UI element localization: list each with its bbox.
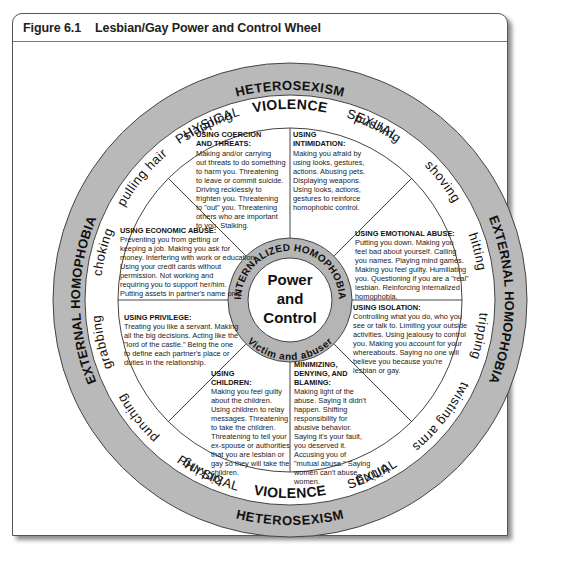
svg-text:children.: children. bbox=[211, 468, 239, 477]
svg-text:feel bad about yourself. Calli: feel bad about yourself. Calling bbox=[355, 247, 456, 256]
svg-text:about the children.: about the children. bbox=[211, 396, 272, 405]
svg-text:you deserved it.: you deserved it. bbox=[294, 441, 346, 450]
svg-text:whereabouts. Saying no one wil: whereabouts. Saying no one will bbox=[352, 348, 459, 357]
svg-text:responsibility for: responsibility for bbox=[294, 414, 348, 423]
svg-text:lesbian. Reinforcing internali: lesbian. Reinforcing internalized bbox=[355, 283, 460, 292]
svg-text:Saying it's your fault,: Saying it's your fault, bbox=[294, 432, 362, 441]
center-and: and bbox=[277, 290, 304, 307]
svg-text:frighten you. Threatening: frighten you. Threatening bbox=[196, 194, 278, 203]
svg-text:women.: women. bbox=[293, 477, 320, 486]
svg-text:USING: USING bbox=[293, 130, 317, 139]
svg-text:MINIMIZING,: MINIMIZING, bbox=[294, 360, 338, 369]
svg-text:ex-spouse or authorities: ex-spouse or authorities bbox=[211, 441, 290, 450]
svg-text:USING EMOTIONAL ABUSE:: USING EMOTIONAL ABUSE: bbox=[355, 229, 455, 238]
svg-text:to "out" you. Threatening: to "out" you. Threatening bbox=[196, 203, 277, 212]
svg-text:homophobia.: homophobia. bbox=[355, 292, 398, 301]
svg-text:all the big decisions. Acting: all the big decisions. Acting like the bbox=[124, 331, 238, 340]
svg-text:money. Interfering with work o: money. Interfering with work or educatio… bbox=[120, 253, 257, 262]
svg-text:Using children to relay: Using children to relay bbox=[211, 405, 284, 414]
svg-text:gestures to reinforce: gestures to reinforce bbox=[293, 194, 360, 203]
svg-text:you. Questioning if you are a: you. Questioning if you are a "real" bbox=[355, 274, 469, 283]
svg-text:believe you because you're: believe you because you're bbox=[353, 357, 442, 366]
svg-text:to leave or commit suicide.: to leave or commit suicide. bbox=[196, 176, 284, 185]
svg-text:USING: USING bbox=[211, 369, 235, 378]
center-power: Power bbox=[267, 271, 312, 288]
svg-text:"mutual abuse." Saying: "mutual abuse." Saying bbox=[294, 459, 370, 468]
svg-text:Preventing you from getting or: Preventing you from getting or bbox=[120, 235, 220, 244]
svg-text:to take the children.: to take the children. bbox=[211, 423, 276, 432]
svg-text:Accusing you of: Accusing you of bbox=[294, 450, 347, 459]
svg-text:BLAMING:: BLAMING: bbox=[294, 378, 331, 387]
svg-text:messages. Threatening: messages. Threatening bbox=[211, 414, 288, 423]
svg-text:Making light of the: Making light of the bbox=[294, 387, 354, 396]
svg-text:requiring you to support her/h: requiring you to support her/him. bbox=[120, 280, 226, 289]
svg-text:DENYING, AND: DENYING, AND bbox=[294, 369, 348, 378]
svg-text:INTIMIDATION:: INTIMIDATION: bbox=[293, 139, 345, 148]
svg-text:Using looks, actions,: Using looks, actions, bbox=[293, 185, 361, 194]
section-emotional-abuse: USING EMOTIONAL ABUSE: Putting you down.… bbox=[355, 229, 469, 301]
svg-text:Making you feel guilty. Humili: Making you feel guilty. Humiliating bbox=[355, 265, 466, 274]
svg-text:you. Making you account for yo: you. Making you account for your bbox=[353, 339, 462, 348]
svg-text:Displaying weapons.: Displaying weapons. bbox=[293, 176, 361, 185]
svg-text:you names. Playing mind games.: you names. Playing mind games. bbox=[355, 256, 464, 265]
svg-text:lesbian or gay.: lesbian or gay. bbox=[353, 366, 401, 375]
svg-text:women can't abuse: women can't abuse bbox=[293, 468, 357, 477]
center-control: Control bbox=[263, 309, 316, 326]
svg-text:USING ECONOMIC ABUSE:: USING ECONOMIC ABUSE: bbox=[120, 226, 216, 235]
svg-text:out threats to do something: out threats to do something bbox=[196, 158, 286, 167]
svg-text:to define each partner's place: to define each partner's place or bbox=[124, 349, 230, 358]
svg-text:Making you feel guilty: Making you feel guilty bbox=[211, 387, 282, 396]
svg-text:actions. Abusing pets.: actions. Abusing pets. bbox=[293, 167, 365, 176]
svg-text:AND THREATS:: AND THREATS: bbox=[196, 139, 251, 148]
svg-text:USING ISOLATION:: USING ISOLATION: bbox=[353, 303, 421, 312]
svg-text:homophobic control.: homophobic control. bbox=[293, 203, 360, 212]
svg-text:Driving recklessly to: Driving recklessly to bbox=[196, 185, 262, 194]
svg-text:Threatening to tell your: Threatening to tell your bbox=[211, 432, 287, 441]
svg-text:that you are lesbian or: that you are lesbian or bbox=[211, 450, 285, 459]
svg-text:"lord of the castle." Being th: "lord of the castle." Being the one bbox=[124, 340, 233, 349]
svg-text:Making and/or carrying: Making and/or carrying bbox=[196, 149, 271, 158]
svg-text:Controlling what you do, who y: Controlling what you do, who you bbox=[353, 312, 462, 321]
svg-text:USING PRIVILEGE:: USING PRIVILEGE: bbox=[124, 313, 191, 322]
svg-text:others who are important: others who are important bbox=[196, 212, 278, 221]
svg-text:keeping a job. Making you ask: keeping a job. Making you ask for bbox=[120, 244, 231, 253]
svg-text:Using your credit cards withou: Using your credit cards without bbox=[120, 262, 221, 271]
svg-text:abusive behavior.: abusive behavior. bbox=[294, 423, 352, 432]
svg-text:gay so they will take the: gay so they will take the bbox=[211, 459, 289, 468]
svg-text:abuse. Saying it didn't: abuse. Saying it didn't bbox=[294, 396, 366, 405]
svg-text:activities. Using jealousy to: activities. Using jealousy to control bbox=[353, 330, 466, 339]
svg-text:CHILDREN:: CHILDREN: bbox=[211, 378, 252, 387]
svg-text:Putting you down. Making you: Putting you down. Making you bbox=[355, 238, 454, 247]
svg-text:happen. Shifting: happen. Shifting bbox=[294, 405, 347, 414]
svg-text:USING COERCION: USING COERCION bbox=[196, 130, 261, 139]
svg-text:using looks, gestures,: using looks, gestures, bbox=[293, 158, 364, 167]
svg-text:Making you afraid by: Making you afraid by bbox=[293, 149, 361, 158]
svg-text:duties in the relationship.: duties in the relationship. bbox=[124, 358, 206, 367]
svg-text:see or talk to. Limiting your: see or talk to. Limiting your outside bbox=[353, 321, 467, 330]
svg-text:Treating you like a servant. M: Treating you like a servant. Making bbox=[124, 322, 238, 331]
svg-text:to harm you. Threatening: to harm you. Threatening bbox=[196, 167, 278, 176]
svg-text:Putting assets in partner's na: Putting assets in partner's name only. bbox=[120, 289, 242, 298]
svg-text:permission. Not working and: permission. Not working and bbox=[120, 271, 213, 280]
power-control-wheel: HETEROSEXISM HETEROSEXISM EXTERNAL HOMOP… bbox=[0, 0, 565, 567]
